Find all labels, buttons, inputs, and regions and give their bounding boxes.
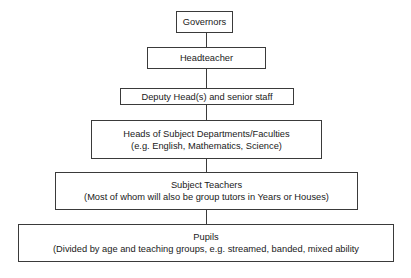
node-sublabel: (Most of whom will also be group tutors … — [84, 191, 329, 203]
node-label: Deputy Head(s) and senior staff — [141, 91, 272, 103]
connector-deputy-heads — [206, 104, 207, 120]
node-pupils: Pupils (Divided by age and teaching grou… — [18, 224, 394, 262]
node-headteacher: Headteacher — [147, 47, 266, 69]
node-heads-of-departments: Heads of Subject Departments/Faculties (… — [91, 120, 322, 159]
connector-teachers-pupils — [206, 209, 207, 224]
connector-headteacher-deputy — [206, 68, 207, 88]
node-label: Headteacher — [180, 52, 233, 64]
node-label: Subject Teachers — [171, 179, 242, 191]
node-governors: Governors — [176, 11, 233, 33]
node-label: Heads of Subject Departments/Faculties — [123, 128, 289, 140]
node-sublabel: (e.g. English, Mathematics, Science) — [131, 140, 282, 152]
connector-governors-headteacher — [206, 32, 207, 47]
node-subject-teachers: Subject Teachers (Most of whom will also… — [55, 172, 358, 210]
node-deputy: Deputy Head(s) and senior staff — [120, 88, 294, 105]
connector-heads-teachers — [206, 158, 207, 172]
node-label: Pupils — [193, 231, 218, 243]
node-sublabel: (Divided by age and teaching groups, e.g… — [53, 243, 359, 255]
node-label: Governors — [183, 16, 226, 28]
